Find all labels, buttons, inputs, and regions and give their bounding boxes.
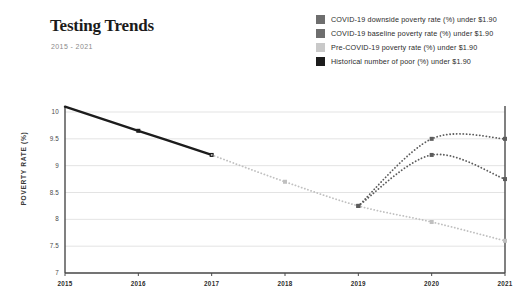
data-point-marker — [283, 180, 287, 184]
chart-canvas — [0, 0, 523, 308]
data-point-marker — [503, 239, 507, 243]
series-line — [212, 155, 505, 241]
data-point-marker — [430, 137, 434, 141]
data-point-marker — [136, 129, 140, 133]
series-line — [358, 154, 505, 206]
chart-page: Testing Trends 2015 - 2021 COVID-19 down… — [0, 0, 523, 308]
data-point-marker — [430, 153, 434, 157]
plot-area: POVERTY RATE (%) 109.598.587.57 20152016… — [0, 0, 523, 308]
data-point-marker — [503, 137, 507, 141]
series-line — [358, 134, 505, 206]
data-point-marker — [356, 204, 360, 208]
data-point-marker — [430, 220, 434, 224]
data-point-marker — [503, 177, 507, 181]
